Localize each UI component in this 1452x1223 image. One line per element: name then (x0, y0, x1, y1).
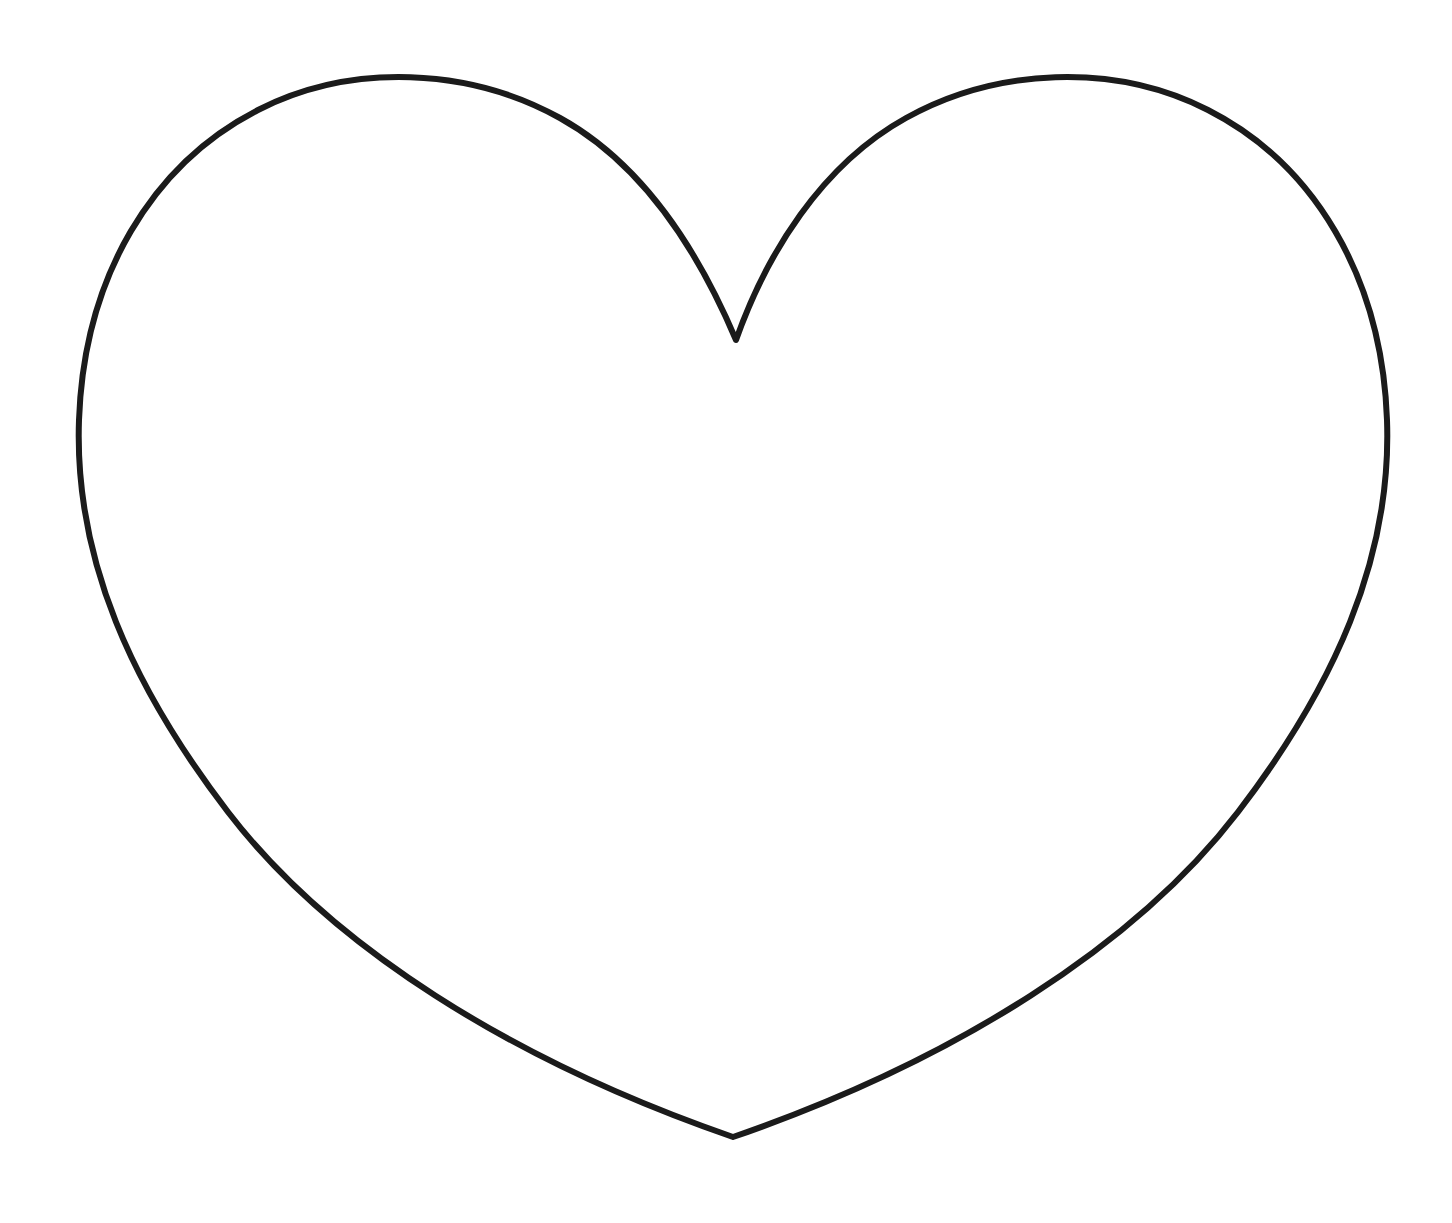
heart-illustration (0, 0, 1452, 1223)
background-rect (0, 0, 1452, 1223)
artboard (0, 0, 1452, 1223)
